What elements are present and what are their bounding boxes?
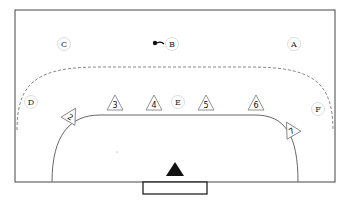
defender-3: 3 xyxy=(107,95,123,110)
defender-label: 3 xyxy=(112,101,117,110)
attacker-label: A xyxy=(290,40,297,49)
attacker-b: B xyxy=(166,38,179,51)
attacker-f: F xyxy=(312,103,325,116)
court-diagram: ABCDEF 234567 xyxy=(0,0,344,206)
dot-marker xyxy=(116,151,117,152)
defender-label: 6 xyxy=(253,101,258,110)
attacker-c: C xyxy=(58,38,71,51)
attacker-e: E xyxy=(172,96,185,109)
defender-5: 5 xyxy=(198,95,214,110)
attacker-label: F xyxy=(315,105,321,114)
attacker-label: B xyxy=(169,40,175,49)
defender-7: 7 xyxy=(280,118,301,139)
ball-icon xyxy=(153,41,164,45)
goalkeeper-icon xyxy=(166,162,184,176)
goal xyxy=(143,182,207,194)
attacker-label: C xyxy=(61,40,67,49)
attacker-label: D xyxy=(28,98,34,107)
defender-label: 5 xyxy=(203,101,208,110)
defender-2: 2 xyxy=(61,104,82,125)
defender-6: 6 xyxy=(248,95,264,110)
attacker-d: D xyxy=(25,96,38,109)
attacker-a: A xyxy=(288,38,301,51)
defender-4: 4 xyxy=(146,95,162,110)
attacker-label: E xyxy=(175,98,181,107)
defender-label: 4 xyxy=(151,101,156,110)
